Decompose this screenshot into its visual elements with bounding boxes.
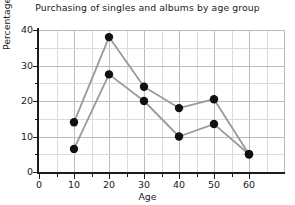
x-tick-mark-minor xyxy=(162,174,163,177)
x-tick-label: 20 xyxy=(95,180,123,190)
x-tick-mark-minor xyxy=(197,174,198,177)
data-point xyxy=(140,83,148,91)
y-tick-label: 40 xyxy=(21,25,33,35)
gridline-vertical xyxy=(284,30,285,172)
data-point xyxy=(105,70,113,78)
x-tick-mark-minor xyxy=(232,174,233,177)
y-tick-mark xyxy=(33,172,38,173)
data-point xyxy=(210,95,218,103)
data-point xyxy=(245,150,253,158)
data-point xyxy=(175,132,183,140)
x-tick-label: 50 xyxy=(200,180,228,190)
x-axis-label: Age xyxy=(0,191,295,202)
y-axis-label: Percentage of sales xyxy=(1,0,12,50)
series-layer xyxy=(39,30,284,172)
y-tick-mark xyxy=(33,30,38,31)
x-tick-mark-minor xyxy=(127,174,128,177)
chart-container: Purchasing of singles and albums by age … xyxy=(0,0,295,205)
data-point xyxy=(70,145,78,153)
y-tick-label: 0 xyxy=(27,167,33,177)
series-line xyxy=(74,37,249,154)
x-tick-label: 60 xyxy=(235,180,263,190)
x-tick-mark-minor xyxy=(92,174,93,177)
x-tick-label: 0 xyxy=(25,180,53,190)
y-tick-mark-minor xyxy=(35,48,38,49)
data-point xyxy=(105,33,113,41)
data-point xyxy=(140,97,148,105)
y-tick-mark xyxy=(33,66,38,67)
y-tick-mark-minor xyxy=(35,119,38,120)
x-tick-label: 30 xyxy=(130,180,158,190)
plot-area xyxy=(39,30,284,172)
data-point xyxy=(70,118,78,126)
y-tick-mark-minor xyxy=(35,83,38,84)
x-tick-label: 40 xyxy=(165,180,193,190)
chart-title: Purchasing of singles and albums by age … xyxy=(0,2,295,13)
y-tick-mark-minor xyxy=(35,154,38,155)
y-tick-label: 10 xyxy=(21,132,33,142)
y-tick-mark xyxy=(33,137,38,138)
y-tick-mark xyxy=(33,101,38,102)
y-tick-label: 20 xyxy=(21,96,33,106)
y-tick-label: 30 xyxy=(21,61,33,71)
x-tick-mark-minor xyxy=(57,174,58,177)
data-point xyxy=(175,104,183,112)
x-tick-label: 10 xyxy=(60,180,88,190)
data-point xyxy=(210,120,218,128)
